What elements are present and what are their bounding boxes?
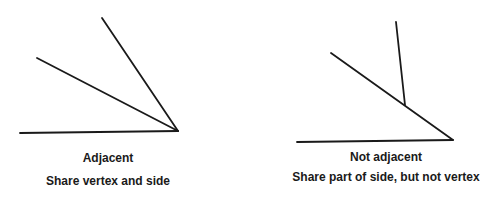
adjacent-caption: Share vertex and side <box>46 174 170 188</box>
base-ray <box>297 140 453 142</box>
not-adjacent-figure <box>297 22 453 142</box>
upper-ray <box>102 18 178 131</box>
slanted-ray <box>331 53 453 140</box>
middle-ray <box>37 58 178 131</box>
not-adjacent-caption: Share part of side, but not vertex <box>292 170 479 184</box>
angle-diagram <box>0 0 495 197</box>
short-ray <box>396 22 405 105</box>
not-adjacent-title: Not adjacent <box>350 150 422 164</box>
adjacent-figure <box>20 18 178 133</box>
adjacent-title: Adjacent <box>83 151 134 165</box>
base-ray <box>20 131 178 133</box>
